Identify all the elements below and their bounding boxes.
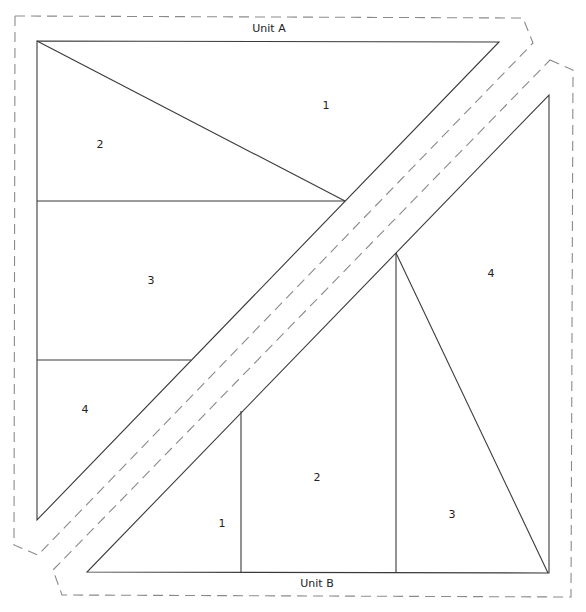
unit-a-outer-seam bbox=[37, 41, 499, 520]
unit-b-piece-number: 3 bbox=[449, 508, 456, 521]
unit-b-label: Unit B bbox=[300, 577, 333, 590]
unit-b-outer-seam bbox=[87, 95, 549, 573]
unit-b-cutting-line bbox=[53, 60, 573, 597]
unit-b-piece-number: 4 bbox=[488, 267, 495, 280]
unit-b: 1234Unit B bbox=[53, 60, 573, 597]
unit-a-piece-number: 3 bbox=[148, 274, 155, 287]
paper-piecing-diagram: 1234Unit A1234Unit B bbox=[0, 0, 586, 612]
unit-a-piece-number: 2 bbox=[97, 138, 104, 151]
unit-b-piece-number: 2 bbox=[314, 471, 321, 484]
unit-a: 1234Unit A bbox=[14, 16, 533, 555]
unit-a-piece-number: 4 bbox=[82, 403, 89, 416]
unit-b-seam-line bbox=[396, 253, 548, 573]
unit-a-label: Unit A bbox=[252, 22, 286, 35]
unit-b-piece-number: 1 bbox=[219, 517, 226, 530]
unit-a-piece-number: 1 bbox=[323, 99, 330, 112]
unit-a-seam-line bbox=[37, 41, 345, 201]
unit-a-cutting-line bbox=[14, 16, 533, 555]
